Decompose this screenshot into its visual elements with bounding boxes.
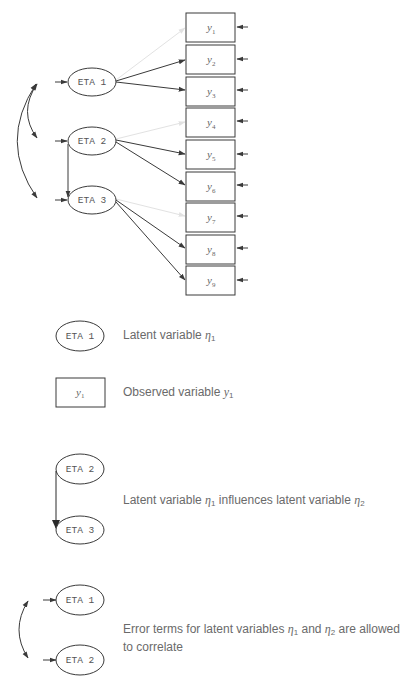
correlation-arc-eta1-eta2: [28, 84, 38, 138]
legend-observed-symbol: y1: [56, 378, 105, 407]
correlation-arc-eta1-eta3: [17, 84, 37, 198]
observed-variable-y8: y8: [186, 235, 248, 264]
loading-eta2-y4: [116, 122, 185, 139]
legend-latent-text: Latent variable η1: [123, 328, 215, 346]
latent-label: ETA 2: [78, 136, 107, 147]
svg-text:ETA 2: ETA 2: [66, 655, 95, 666]
loading-eta1-y2: [116, 60, 185, 81]
latent-label: ETA 3: [78, 195, 107, 206]
legend: ETA 1 y1 ETA 2 ETA 3 ETA 1 ETA 2: [19, 321, 105, 675]
legend-observed-text: Observed variable y1: [123, 385, 234, 403]
loading-eta1-y3: [116, 82, 185, 90]
observed-variable-y6: y6: [186, 172, 248, 201]
latent-label: ETA 1: [78, 77, 107, 88]
observed-variable-y5: y5: [186, 140, 248, 169]
svg-text:ETA 3: ETA 3: [66, 525, 95, 536]
legend-influence-symbol: ETA 2 ETA 3: [56, 454, 104, 544]
latent-variable-eta3: ETA 3: [68, 186, 116, 214]
observed-variable-y1: y1: [186, 13, 248, 42]
latent-variable-eta1: ETA 1: [68, 68, 116, 96]
loading-eta2-y6: [116, 142, 185, 185]
latent-variable-eta2: ETA 2: [68, 127, 116, 155]
observed-variable-y7: y7: [186, 203, 248, 232]
observed-variable-y4: y4: [186, 108, 248, 137]
legend-influence-text: Latent variable η1 influences latent var…: [123, 493, 365, 511]
main-diagram: ETA 1 ETA 2 ETA 3 y1 y2 y3 y4: [17, 13, 248, 295]
loading-eta2-y5: [116, 140, 185, 154]
legend-correlation-symbol: ETA 1 ETA 2: [19, 585, 104, 675]
svg-text:ETA 2: ETA 2: [66, 464, 95, 475]
observed-variable-y2: y2: [186, 45, 248, 74]
legend-latent-symbol: ETA 1: [56, 321, 104, 351]
observed-variable-y3: y3: [186, 77, 248, 106]
observed-variable-y9: y9: [186, 266, 248, 295]
legend-correlation-text: Error terms for latent variables η1 and …: [123, 622, 403, 655]
svg-text:ETA 1: ETA 1: [66, 595, 95, 606]
svg-text:ETA 1: ETA 1: [66, 331, 95, 342]
loading-eta1-y1: [116, 28, 185, 80]
